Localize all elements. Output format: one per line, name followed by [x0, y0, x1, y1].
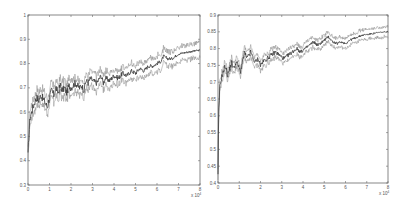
- y-tick-label: 0.8: [20, 61, 27, 66]
- x-multiplier-label: x 104: [191, 192, 202, 198]
- y-tick-label: 0.4: [20, 158, 27, 163]
- y-tick-label: 0.45: [207, 164, 216, 169]
- x-tick-label: 7: [177, 187, 180, 192]
- y-tick-label: 0.5: [20, 134, 27, 139]
- y-tick-label: 0.6: [20, 110, 27, 115]
- right-line-chart: 0123456780.40.450.50.550.60.650.70.750.8…: [207, 13, 390, 197]
- y-tick-label: 0.7: [20, 85, 27, 90]
- y-tick-label: 0.75: [207, 63, 216, 68]
- x-tick-label: 1: [238, 185, 241, 190]
- y-tick-label: 0.8: [210, 46, 217, 51]
- x-tick-label: 7: [365, 185, 368, 190]
- x-tick-label: 5: [323, 185, 326, 190]
- x-tick-label: 5: [134, 187, 137, 192]
- mean-line: [218, 31, 388, 174]
- y-tick-label: 0.6: [210, 113, 217, 118]
- y-tick-label: 0.3: [20, 183, 27, 188]
- y-tick-label: 1: [23, 13, 26, 18]
- figure-canvas: 0123456780.30.40.50.60.70.80.91x 104 012…: [0, 0, 410, 211]
- y-tick-label: 0.85: [207, 29, 216, 34]
- y-tick-label: 0.5: [210, 147, 217, 152]
- x-tick-label: 6: [156, 187, 159, 192]
- lower-bound-line: [28, 55, 200, 161]
- x-tick-label: 3: [91, 187, 94, 192]
- y-tick-label: 0.9: [20, 37, 27, 42]
- plot-frame: [218, 15, 388, 183]
- y-tick-label: 0.7: [210, 80, 217, 85]
- x-tick-label: 4: [113, 187, 116, 192]
- y-tick-label: 0.55: [207, 130, 216, 135]
- x-tick-label: 2: [70, 187, 73, 192]
- x-multiplier-label: x 104: [379, 190, 390, 196]
- left-line-chart: 0123456780.30.40.50.60.70.80.91x 104: [20, 13, 202, 199]
- y-tick-label: 0.9: [210, 13, 217, 18]
- x-tick-label: 4: [302, 185, 305, 190]
- x-tick-label: 2: [259, 185, 262, 190]
- x-tick-label: 0: [27, 187, 30, 192]
- y-tick-label: 0.4: [210, 181, 217, 186]
- x-tick-label: 0: [217, 185, 220, 190]
- x-tick-label: 6: [344, 185, 347, 190]
- upper-bound-line: [218, 25, 388, 169]
- x-tick-label: 3: [280, 185, 283, 190]
- y-tick-label: 0.65: [207, 97, 216, 102]
- x-tick-label: 1: [48, 187, 51, 192]
